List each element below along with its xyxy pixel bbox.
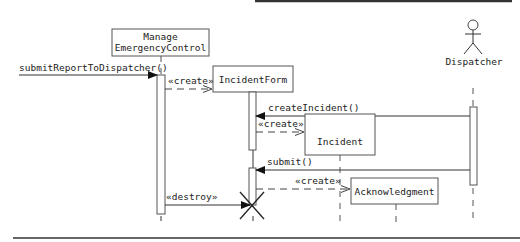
- activation-bar: [249, 168, 256, 205]
- participant-incident-form: IncidentForm: [213, 66, 293, 221]
- svg-text:createIncident(): createIncident(): [268, 102, 360, 113]
- activation-bar: [157, 75, 165, 214]
- activation-bar: [249, 92, 256, 150]
- message-create-acknowledgment: «create»: [256, 175, 350, 189]
- svg-text:«create»: «create»: [258, 118, 304, 129]
- sequence-diagram: Manage EmergencyControl submitReportToDi…: [0, 0, 520, 242]
- activation-bar: [470, 107, 477, 185]
- actor-stick-figure-icon: [464, 20, 482, 54]
- message-destroy: «destroy»: [165, 191, 250, 205]
- participant-acknowledgment: Acknowledgment: [351, 178, 438, 225]
- participant-label-line1: Manage: [143, 31, 178, 42]
- participant-dispatcher: Dispatcher: [445, 20, 502, 220]
- svg-text:«destroy»: «destroy»: [166, 191, 218, 202]
- message-submit: submit(): [256, 156, 470, 170]
- message-create-incident-object: «create»: [256, 118, 304, 132]
- message-submit-report-to-dispatcher: submitReportToDispatcher(): [19, 62, 168, 75]
- svg-text:submit(): submit(): [267, 156, 313, 167]
- svg-text:submitReportToDispatcher(): submitReportToDispatcher(): [19, 62, 168, 73]
- svg-text:«create»: «create»: [168, 75, 214, 86]
- svg-text:«create»: «create»: [295, 175, 341, 186]
- svg-text:IncidentForm: IncidentForm: [219, 74, 288, 85]
- svg-text:Dispatcher: Dispatcher: [445, 56, 502, 67]
- svg-text:Incident: Incident: [317, 136, 363, 147]
- svg-text:Acknowledgment: Acknowledgment: [354, 186, 434, 197]
- message-create-incidentform: «create»: [165, 75, 214, 89]
- participant-label-line2: EmergencyControl: [115, 42, 207, 53]
